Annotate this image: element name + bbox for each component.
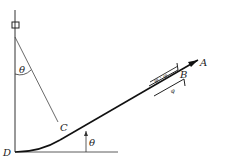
theta-top-label: θ (19, 64, 25, 75)
arrow-head-A (188, 60, 198, 67)
label-A: A (199, 57, 207, 68)
diagram-canvas: θ θ φ · φ φ A B C D (0, 0, 225, 161)
label-D: D (2, 147, 11, 158)
cable-line (15, 37, 58, 122)
label-B: B (179, 69, 187, 80)
label-C: C (60, 122, 68, 133)
curved-track (15, 140, 60, 152)
lower-fill-label: φ (169, 86, 177, 95)
theta-arrow-tip (84, 131, 88, 136)
incline-track (60, 60, 198, 140)
theta-bottom-label: θ (89, 137, 95, 148)
